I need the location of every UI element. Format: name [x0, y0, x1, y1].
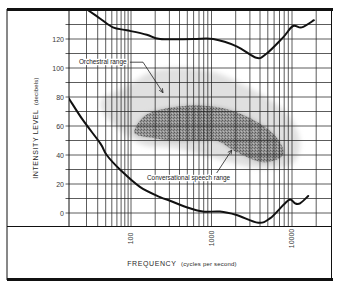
- x-tick-label: 1000: [208, 231, 215, 247]
- x-tick-label: 10000: [288, 229, 295, 249]
- x-axis-label-main: FREQUENCY: [127, 260, 176, 268]
- y-tick-label: 120: [52, 36, 64, 43]
- y-axis-label-main: INTENSITY LEVEL: [32, 110, 39, 179]
- x-axis-label-unit: (cycles per second): [181, 261, 237, 267]
- x-axis-label: FREQUENCY (cycles per second): [127, 260, 237, 268]
- y-tick-label: 40: [56, 152, 64, 159]
- conversational-speech-range-label: Conversational speech range: [147, 174, 231, 182]
- y-tick-label: 20: [56, 181, 64, 188]
- orchestral-range-label: Orchestral range: [79, 58, 127, 66]
- x-tick-label: 100: [127, 233, 134, 245]
- y-tick-label: 80: [56, 94, 64, 101]
- y-tick-label: 0: [60, 210, 64, 217]
- y-tick-label: 100: [52, 65, 64, 72]
- y-tick-label: 60: [56, 123, 64, 130]
- y-axis-label: INTENSITY LEVEL (decibels): [32, 77, 39, 178]
- frequency-intensity-chart: 020406080100120 100100010000 Orchestral …: [0, 0, 339, 287]
- y-axis-label-unit: (decibels): [33, 77, 39, 105]
